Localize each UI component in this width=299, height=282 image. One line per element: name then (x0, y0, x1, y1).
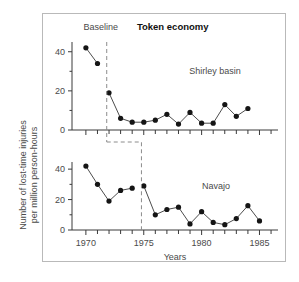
series-line-shirley-basin-1 (109, 93, 248, 124)
data-point (211, 121, 216, 126)
series-label-navajo: Navajo (202, 181, 230, 191)
baseline-phase-label: Baseline (83, 22, 118, 32)
data-point (199, 121, 204, 126)
y-tick-label-1-2: 40 (55, 164, 65, 174)
data-point (257, 218, 262, 223)
data-point (234, 216, 239, 221)
data-point (211, 220, 216, 225)
data-point (245, 106, 250, 111)
data-point (222, 102, 227, 107)
y-axis-title-line2: per million person-hours (29, 126, 39, 223)
data-point (199, 209, 204, 214)
data-point (164, 207, 169, 212)
x-tick-label-1: 1975 (134, 238, 154, 248)
x-tick-label-0: 1970 (76, 238, 96, 248)
token-economy-phase-label: Token economy (137, 21, 209, 32)
series-line-navajo-1 (144, 186, 260, 225)
data-point (118, 188, 123, 193)
y-tick-label-1-0: 0 (60, 225, 65, 235)
series-line-navajo-0 (86, 166, 132, 201)
y-tick-label-0-0: 0 (60, 125, 65, 135)
data-point (176, 122, 181, 127)
data-point (130, 120, 135, 125)
data-point (245, 203, 250, 208)
figure-container: 02040020401970197519801985YearsNumber of… (0, 0, 299, 282)
injuries-line-chart: 02040020401970197519801985YearsNumber of… (0, 0, 299, 282)
data-point (176, 205, 181, 210)
data-point (141, 120, 146, 125)
y-tick-label-1-1: 20 (55, 195, 65, 205)
y-tick-label-0-1: 20 (55, 86, 65, 96)
y-axis-title-line1: Number of lost-time injuries (18, 120, 28, 230)
data-point (164, 112, 169, 117)
x-axis-title: Years (164, 252, 187, 262)
data-point (187, 110, 192, 115)
data-point (130, 186, 135, 191)
data-point (234, 114, 239, 119)
series-label-shirley-basin: Shirley basin (189, 66, 241, 76)
data-point (83, 45, 88, 50)
x-tick-label-2: 1980 (192, 238, 212, 248)
series-line-shirley-basin-0 (86, 48, 98, 64)
phase-line-navajo (107, 142, 142, 230)
data-point (222, 222, 227, 227)
data-point (106, 199, 111, 204)
data-point (95, 61, 100, 66)
data-point (83, 164, 88, 169)
data-point (153, 212, 158, 217)
data-point (141, 183, 146, 188)
x-tick-label-3: 1985 (249, 238, 269, 248)
data-point (118, 116, 123, 121)
data-point (153, 118, 158, 123)
y-tick-label-0-2: 40 (55, 47, 65, 57)
data-point (187, 221, 192, 226)
data-point (95, 182, 100, 187)
